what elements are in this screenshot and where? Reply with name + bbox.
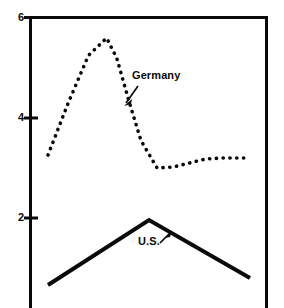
chart-container: 6 4 2 Germany U.S. — [0, 0, 284, 308]
germany-annotation-arrow-line — [126, 86, 138, 103]
chart-plot-area — [0, 0, 284, 308]
y-axis-tick-label-4: 4 — [8, 112, 24, 123]
y-axis-tick-label-2: 2 — [8, 212, 24, 223]
series-annotation-germany: Germany — [132, 70, 180, 81]
series-line-us — [48, 220, 250, 285]
series-annotation-us: U.S. — [138, 236, 160, 247]
y-axis-tick-label-6: 6 — [8, 12, 24, 23]
series-line-germany — [48, 38, 250, 168]
